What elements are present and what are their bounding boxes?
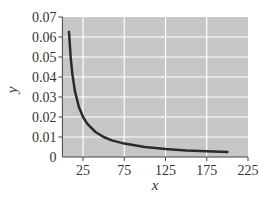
y-tick-label: 0 [49, 150, 56, 165]
y-tick-label: 0.05 [32, 50, 57, 65]
x-tick-label: 25 [76, 163, 90, 178]
y-tick-label: 0.04 [32, 70, 57, 85]
x-tick-label: 225 [238, 163, 259, 178]
y-tick-label: 0.03 [32, 90, 57, 105]
x-tick-label: 125 [155, 163, 176, 178]
y-axis-ticks: 00.010.020.030.040.050.060.07 [32, 10, 63, 165]
line-chart: 2575125175225 00.010.020.030.040.050.060… [0, 0, 267, 198]
y-tick-label: 0.07 [32, 10, 57, 25]
y-tick-label: 0.01 [32, 130, 57, 145]
y-axis-label: y [4, 86, 20, 95]
x-axis-label: x [151, 177, 159, 193]
x-tick-label: 175 [196, 163, 217, 178]
plot-area [62, 17, 248, 157]
y-tick-label: 0.06 [32, 30, 57, 45]
x-tick-label: 75 [117, 163, 131, 178]
x-axis-ticks: 2575125175225 [76, 157, 258, 178]
y-tick-label: 0.02 [32, 110, 57, 125]
